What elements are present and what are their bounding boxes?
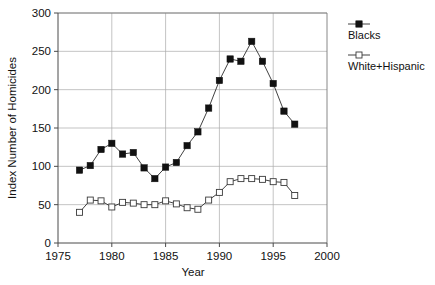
data-point-marker: White+Hispanic 1985: 55 <box>163 198 169 204</box>
data-point-marker: Blacks 1992: 237 <box>238 58 244 64</box>
y-tick-label: 100 <box>32 160 51 172</box>
data-point-marker: Blacks 1993: 263 <box>248 38 254 44</box>
data-point-marker: White+Hispanic 1980: 47 <box>109 204 115 210</box>
axis-ticks <box>54 13 327 247</box>
y-tick-label: 300 <box>32 7 51 19</box>
x-axis-title: Year <box>181 266 204 278</box>
data-point-marker: White+Hispanic 1990: 66 <box>216 189 222 195</box>
data-point-marker: Blacks 1978: 101 <box>87 162 93 168</box>
y-tick-label: 150 <box>32 122 51 134</box>
y-axis-title: Index Number of Homicides <box>6 57 18 199</box>
series-white-hispanic: White+Hispanic 1977: 40White+Hispanic 19… <box>77 176 298 216</box>
data-point-marker: Blacks 1983: 98 <box>141 165 147 171</box>
x-tick-label: 1980 <box>99 250 125 262</box>
data-point-marker: White+Hispanic 1979: 55 <box>98 198 104 204</box>
x-tick-label: 1975 <box>45 250 71 262</box>
data-point-marker: Blacks 1991: 240 <box>227 56 233 62</box>
data-point-marker: Blacks 1997: 155 <box>292 121 298 127</box>
data-point-marker: White+Hispanic 1995: 80 <box>270 179 276 185</box>
data-point-marker: Blacks 1980: 130 <box>109 140 115 146</box>
data-point-marker: White+Hispanic 1993: 84 <box>249 176 255 182</box>
data-point-marker: Blacks 1987: 127 <box>184 142 190 148</box>
data-point-marker: White+Hispanic 1991: 80 <box>227 179 233 185</box>
data-point-marker: White+Hispanic 1994: 83 <box>259 176 265 182</box>
data-point-marker: Blacks 1982: 118 <box>130 149 136 155</box>
data-point-marker: Blacks 1990: 212 <box>216 77 222 83</box>
data-point-marker: White+Hispanic 1996: 79 <box>281 179 287 185</box>
data-point-marker: White+Hispanic 1987: 46 <box>184 205 190 211</box>
data-point-marker: White+Hispanic 1989: 56 <box>206 197 212 203</box>
y-tick-label: 200 <box>32 84 51 96</box>
data-point-marker: Blacks 1996: 172 <box>281 108 287 114</box>
data-point-marker: Blacks 1995: 208 <box>270 80 276 86</box>
data-point-marker: White+Hispanic 1978: 56 <box>87 197 93 203</box>
data-point-marker: White+Hispanic 1982: 52 <box>130 200 136 206</box>
x-tick-label: 2000 <box>314 250 340 262</box>
y-tick-label: 250 <box>32 45 51 57</box>
x-tick-labels: 197519801985199019952000 <box>45 250 340 262</box>
legend-label-0: Blacks <box>348 29 381 41</box>
data-point-marker: Blacks 1985: 99 <box>162 164 168 170</box>
data-point-marker: Blacks 1989: 176 <box>205 105 211 111</box>
y-tick-label: 0 <box>45 237 51 249</box>
data-point-marker: White+Hispanic 1997: 62 <box>292 192 298 198</box>
data-point-marker: White+Hispanic 1992: 84 <box>238 176 244 182</box>
y-tick-label: 50 <box>38 199 51 211</box>
data-point-marker: Blacks 1984: 84 <box>152 175 158 181</box>
data-point-marker: White+Hispanic 1977: 40 <box>77 209 83 215</box>
data-point-marker: White+Hispanic 1984: 50 <box>152 202 158 208</box>
data-point-marker: Blacks 1988: 145 <box>195 129 201 135</box>
legend-marker-0 <box>356 21 362 27</box>
x-tick-label: 1995 <box>260 250 286 262</box>
x-tick-label: 1985 <box>153 250 179 262</box>
homicide-index-line-chart: 050100150200250300 197519801985199019952… <box>0 0 435 285</box>
series-blacks: Blacks 1977: 95Blacks 1978: 101Blacks 19… <box>76 38 298 182</box>
data-point-marker: Blacks 1979: 122 <box>98 146 104 152</box>
data-point-marker: Blacks 1981: 116 <box>119 151 125 157</box>
chart-figure: 050100150200250300 197519801985199019952… <box>0 0 435 285</box>
chart-legend: BlacksWhite+Hispanic <box>348 21 425 72</box>
data-point-marker: White+Hispanic 1983: 50 <box>141 202 147 208</box>
legend-marker-1 <box>356 52 362 58</box>
data-point-marker: White+Hispanic 1981: 53 <box>120 199 126 205</box>
data-point-marker: Blacks 1977: 95 <box>76 167 82 173</box>
y-tick-labels: 050100150200250300 <box>32 7 51 249</box>
legend-label-1: White+Hispanic <box>348 60 425 72</box>
data-point-marker: White+Hispanic 1986: 51 <box>173 201 179 207</box>
x-tick-label: 1990 <box>207 250 233 262</box>
data-point-marker: White+Hispanic 1988: 44 <box>195 206 201 212</box>
data-point-marker: Blacks 1994: 237 <box>259 58 265 64</box>
data-point-marker: Blacks 1986: 105 <box>173 159 179 165</box>
